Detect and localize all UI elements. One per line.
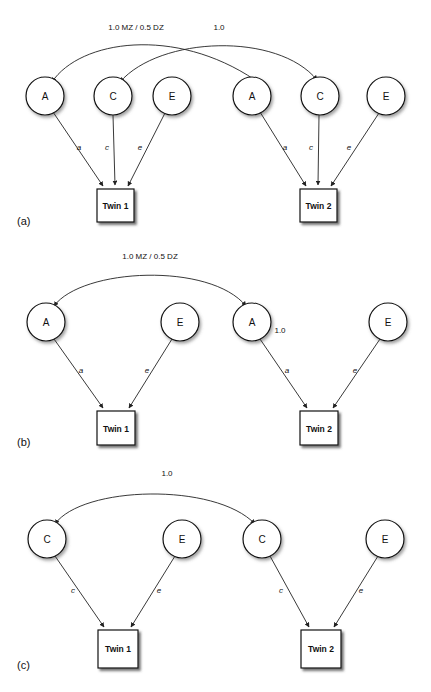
panel-a: 1.0 MZ / 0.5 DZ 1.0 A C E A C E a c e a … — [17, 23, 405, 228]
twin-model-path-diagram-figure: 1.0 MZ / 0.5 DZ 1.0 A C E A C E a c e a … — [0, 0, 431, 692]
panel-b-observed-twin2-label: Twin 2 — [306, 424, 332, 434]
panel-c: 1.0 C E C E c e c e Twin 1 Twin 2 (c) — [17, 469, 404, 672]
panel-c-latent-E-twin2-label: E — [382, 534, 389, 545]
panel-a-latent-E-twin2-label: E — [383, 91, 390, 102]
panel-a-latent-A-twin2-label: A — [249, 91, 256, 102]
panel-c-latent-C-twin2-label: C — [258, 534, 265, 545]
panel-a-correlation-label-A: 1.0 MZ / 0.5 DZ — [108, 23, 164, 32]
panel-c-correlation-label-C: 1.0 — [161, 469, 173, 478]
panel-c-observed-twin2-label: Twin 2 — [308, 644, 334, 654]
panel-b-latent-A-twin2-label: A — [249, 317, 256, 328]
panel-c-path-c-twin2 — [270, 556, 309, 627]
panel-c-coef-c-twin1: c — [71, 586, 75, 595]
panel-b-latent-E-twin1-label: E — [177, 317, 184, 328]
panel-b-coef-a-twin2: a — [285, 366, 290, 375]
panel-b-path-a-twin2 — [260, 339, 307, 408]
panel-a-coef-e-twin2: e — [347, 143, 352, 152]
panel-c-path-e-twin2 — [334, 556, 378, 627]
panel-b-path-e-twin1 — [129, 339, 172, 408]
panel-a-latent-A-twin1-label: A — [42, 91, 49, 102]
panel-b-coef-e-twin2: e — [353, 366, 358, 375]
panel-a-label: (a) — [17, 215, 30, 227]
diagram-canvas: 1.0 MZ / 0.5 DZ 1.0 A C E A C E a c e a … — [0, 0, 431, 692]
panel-c-observed-twin1-label: Twin 1 — [105, 644, 131, 654]
panel-a-path-e-twin1 — [128, 113, 165, 186]
panel-b-label: (b) — [17, 436, 30, 448]
panel-a-path-c-twin1 — [113, 115, 115, 185]
panel-b: 1.0 MZ / 0.5 DZ A E A 1.0 E a e a e Twin… — [17, 252, 407, 449]
panel-a-coef-c-twin1: c — [105, 143, 109, 152]
panel-a-coef-a-twin2: a — [283, 143, 288, 152]
panel-a-correlation-curve-C — [120, 46, 317, 82]
panel-a-coef-c-twin2: c — [309, 143, 313, 152]
panel-a-coef-a-twin1: a — [77, 143, 82, 152]
panel-a-path-e-twin2 — [331, 113, 379, 186]
panel-a-latent-C-twin2-label: C — [316, 91, 323, 102]
panel-a-latent-E-twin1-label: E — [169, 91, 176, 102]
panel-a-latent-C-twin1-label: C — [109, 91, 116, 102]
panel-c-coef-e-twin1: e — [157, 586, 162, 595]
panel-b-inline-correlation-value: 1.0 — [274, 326, 286, 335]
panel-b-correlation-curve-A — [54, 275, 246, 306]
panel-c-path-e-twin1 — [131, 556, 175, 627]
panel-a-correlation-label-C: 1.0 — [213, 23, 225, 32]
panel-a-path-c-twin2 — [318, 115, 319, 185]
panel-c-correlation-curve-C — [55, 494, 255, 524]
panel-a-observed-twin1-label: Twin 1 — [103, 201, 129, 211]
panel-c-label: (c) — [17, 659, 30, 671]
panel-a-correlation-curve-A — [52, 45, 255, 82]
panel-b-latent-A-twin1-label: A — [43, 317, 50, 328]
panel-c-path-c-twin1 — [55, 556, 104, 627]
panel-c-latent-C-twin1-label: C — [43, 534, 50, 545]
panel-b-coef-a-twin1: a — [79, 366, 84, 375]
panel-a-observed-twin2-label: Twin 2 — [306, 201, 332, 211]
panel-a-coef-e-twin1: e — [138, 143, 143, 152]
panel-b-observed-twin1-label: Twin 1 — [103, 424, 129, 434]
panel-c-latent-E-twin1-label: E — [179, 534, 186, 545]
panel-c-coef-c-twin2: c — [279, 586, 283, 595]
panel-b-correlation-label-A: 1.0 MZ / 0.5 DZ — [122, 252, 178, 261]
panel-b-latent-E-twin2-label: E — [385, 317, 392, 328]
panel-b-coef-e-twin1: e — [145, 366, 150, 375]
panel-c-coef-e-twin2: e — [359, 586, 364, 595]
